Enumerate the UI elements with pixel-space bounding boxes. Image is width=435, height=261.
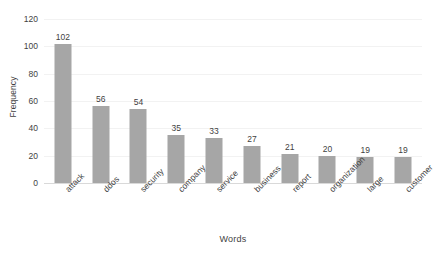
x-tick-group: security [120, 183, 158, 239]
bar-group: 56 [82, 19, 120, 183]
y-tick-label: 40 [4, 123, 38, 133]
y-axis-tick-labels: 020406080100120 [0, 0, 44, 261]
bar-value-label: 54 [134, 97, 143, 107]
bar-group: 20 [309, 19, 347, 183]
bar-business [243, 146, 260, 183]
x-tick-group: attack [44, 183, 82, 239]
bar-value-label: 35 [172, 123, 181, 133]
bar-security [130, 109, 147, 183]
bar-value-label: 20 [323, 144, 332, 154]
y-tick-label: 60 [4, 96, 38, 106]
y-tick-label: 20 [4, 151, 38, 161]
x-tick-group: ddos [82, 183, 120, 239]
bar-value-label: 21 [285, 142, 294, 152]
x-axis-title: Words [44, 234, 422, 244]
x-tick-group: large [346, 183, 384, 239]
bar-value-label: 102 [56, 32, 70, 42]
bar-value-label: 27 [247, 134, 256, 144]
y-tick-label: 100 [4, 41, 38, 51]
bar-group: 27 [233, 19, 271, 183]
x-tick-group: business [233, 183, 271, 239]
y-tick-label: 0 [4, 178, 38, 188]
y-tick-label: 120 [4, 14, 38, 24]
bar-group: 54 [120, 19, 158, 183]
bar-value-label: 33 [209, 126, 218, 136]
x-axis-tick-labels: attackddossecuritycompanyservicebusiness… [44, 183, 422, 239]
bar-value-label: 19 [398, 145, 407, 155]
y-tick-label: 80 [4, 69, 38, 79]
x-tick-group: report [271, 183, 309, 239]
x-tick-group: customer [384, 183, 422, 239]
x-tick-group: organization [309, 183, 347, 239]
bar-ddos [92, 106, 109, 183]
bar-group: 21 [271, 19, 309, 183]
bar-attack [54, 44, 71, 183]
bar-value-label: 56 [96, 94, 105, 104]
bar-group: 102 [44, 19, 82, 183]
bar-group: 19 [346, 19, 384, 183]
x-tick-group: company [157, 183, 195, 239]
x-tick-group: service [195, 183, 233, 239]
bar-series: 102565435332721201919 [44, 19, 422, 183]
bar-group: 33 [195, 19, 233, 183]
bar-report [281, 154, 298, 183]
plot-area: 102565435332721201919 [44, 19, 422, 183]
bar-group: 19 [384, 19, 422, 183]
bar-value-label: 19 [361, 145, 370, 155]
bar-service [206, 138, 223, 183]
bar-company [168, 135, 185, 183]
bar-group: 35 [157, 19, 195, 183]
